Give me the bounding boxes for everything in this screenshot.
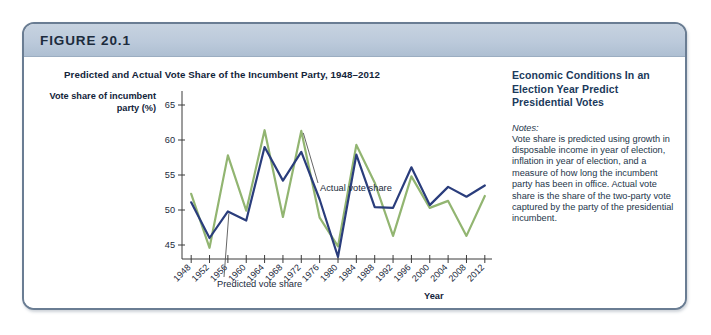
x-axis-title: Year xyxy=(424,291,444,301)
figure-frame: FIGURE 20.1 Predicted and Actual Vote Sh… xyxy=(22,22,687,310)
svg-text:1992: 1992 xyxy=(373,262,394,283)
side-panel: Economic Conditions In an Election Year … xyxy=(512,57,687,310)
notes-body: Vote share is predicted using growth in … xyxy=(512,134,677,225)
annotation-predicted-vote-share: Predicted vote share xyxy=(217,279,302,289)
figure-number-label: FIGURE 20.1 xyxy=(24,33,131,48)
svg-text:1988: 1988 xyxy=(355,262,376,283)
chart-block: Predicted and Actual Vote Share of the I… xyxy=(24,57,494,310)
svg-text:2004: 2004 xyxy=(428,262,449,283)
figure-body: Predicted and Actual Vote Share of the I… xyxy=(24,57,685,310)
svg-text:2008: 2008 xyxy=(447,262,468,283)
svg-text:60: 60 xyxy=(165,135,175,145)
svg-text:65: 65 xyxy=(165,100,175,110)
svg-text:55: 55 xyxy=(165,170,175,180)
figure-header: FIGURE 20.1 xyxy=(24,24,685,57)
chart-series-lines xyxy=(191,130,485,257)
svg-text:1980: 1980 xyxy=(318,262,339,283)
svg-text:1976: 1976 xyxy=(300,262,321,283)
y-axis-title: Vote share of incumbent party (%) xyxy=(46,91,156,114)
svg-text:1948: 1948 xyxy=(171,262,192,283)
line-chart-plot: 1948195219561960196419681972197619801984… xyxy=(160,87,494,277)
chart-title: Predicted and Actual Vote Share of the I… xyxy=(64,69,464,80)
svg-text:2000: 2000 xyxy=(410,262,431,283)
svg-text:45: 45 xyxy=(165,240,175,250)
svg-text:2012: 2012 xyxy=(465,262,486,283)
svg-text:1996: 1996 xyxy=(392,262,413,283)
svg-text:1984: 1984 xyxy=(337,262,358,283)
notes-label: Notes: xyxy=(512,123,677,133)
chart-svg: 1948195219561960196419681972197619801984… xyxy=(160,87,494,301)
svg-text:50: 50 xyxy=(165,205,175,215)
side-panel-heading: Economic Conditions In an Election Year … xyxy=(512,69,677,110)
annotation-leader-lines xyxy=(224,133,318,277)
y-tick-labels: 4550556065 xyxy=(165,100,175,250)
chart-axes xyxy=(178,91,492,263)
annotation-actual-vote-share: Actual vote share xyxy=(320,183,392,193)
svg-text:1952: 1952 xyxy=(190,262,211,283)
